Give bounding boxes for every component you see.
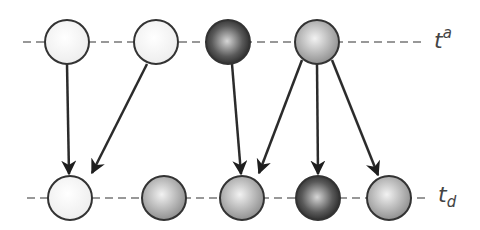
edge-top0-bottom0 <box>67 64 69 174</box>
edge-top3-bottom2 <box>259 60 302 173</box>
node-top-1-white <box>134 20 178 64</box>
edge-top2-bottom2 <box>232 64 241 174</box>
node-top-3-gray <box>295 20 339 64</box>
edge-top3-bottom4 <box>332 60 378 175</box>
label-bottom-subscript: d <box>447 193 457 211</box>
diagram-canvas <box>0 0 480 230</box>
label-top-base: t <box>434 28 443 53</box>
label-bottom-base: t <box>438 182 447 207</box>
label-top-timeline: ta <box>434 26 452 53</box>
edges <box>67 60 378 175</box>
label-top-superscript: a <box>443 24 452 42</box>
node-bottom-3-dark <box>296 176 340 220</box>
node-top-2-dark <box>206 20 250 64</box>
node-top-0-white <box>45 20 89 64</box>
node-bottom-4-gray <box>367 176 411 220</box>
node-bottom-0-white <box>48 176 92 220</box>
edge-top1-bottom0 <box>92 64 147 173</box>
node-bottom-2-gray <box>220 176 264 220</box>
edge-top3-bottom3 <box>317 64 318 174</box>
label-bottom-timeline: td <box>438 182 456 211</box>
node-bottom-1-gray <box>142 176 186 220</box>
